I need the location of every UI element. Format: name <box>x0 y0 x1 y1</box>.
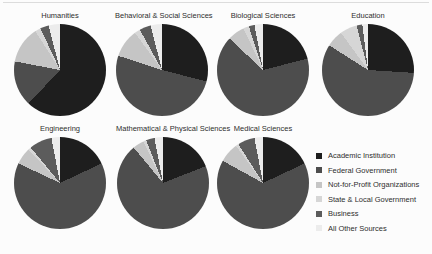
legend-color-swatch <box>316 182 322 188</box>
pie-title: Medical Sciences <box>216 124 310 134</box>
pie-biological-sciences <box>217 24 309 116</box>
legend-label: All Other Sources <box>328 224 387 233</box>
legend-color-swatch <box>316 196 322 202</box>
pie-engineering <box>14 137 106 229</box>
legend-color-swatch <box>316 225 322 231</box>
legend-label: Business <box>328 209 358 218</box>
legend-item-not-for-profit-organizations: Not-for-Profit Organizations <box>316 180 419 189</box>
legend-item-federal-government: Federal Government <box>316 166 419 175</box>
pie-chart-panel: Humanities Behavioral & Social Sciences … <box>0 0 432 254</box>
pie-humanities <box>14 24 106 116</box>
legend-label: Not-for-Profit Organizations <box>328 180 419 189</box>
pie-title: Education <box>321 11 415 21</box>
pie-title: Humanities <box>13 11 107 21</box>
legend-color-swatch <box>316 211 322 217</box>
pie-figure-humanities: Humanities <box>13 11 107 116</box>
legend-label: State & Local Government <box>328 195 416 204</box>
pie-title: Biological Sciences <box>216 11 310 21</box>
pie-mathematical-physical-sciences <box>117 137 209 229</box>
legend-color-swatch <box>316 167 322 173</box>
legend-label: Academic Institution <box>328 151 395 160</box>
pie-title: Behavioral & Social Sciences <box>115 11 209 21</box>
pie-figure-medical-sciences: Medical Sciences <box>216 124 310 229</box>
pie-behavioral-social-sciences <box>116 24 208 116</box>
pie-figure-engineering: Engineering <box>13 124 107 229</box>
pie-title: Mathematical & Physical Sciences <box>116 124 210 134</box>
pie-medical-sciences <box>217 137 309 229</box>
pie-figure-biological-sciences: Biological Sciences <box>216 11 310 116</box>
pie-education <box>322 24 414 116</box>
pie-title: Engineering <box>13 124 107 134</box>
legend-color-swatch <box>316 153 322 159</box>
legend-item-all-other-sources: All Other Sources <box>316 224 419 233</box>
pie-figure-mathematical-physical-sciences: Mathematical & Physical Sciences <box>116 124 210 229</box>
pie-figure-education: Education <box>321 11 415 116</box>
legend-label: Federal Government <box>328 166 397 175</box>
page-top-rule <box>3 2 429 3</box>
legend-item-business: Business <box>316 209 419 218</box>
legend: Academic Institution Federal Government … <box>316 151 419 233</box>
pie-figure-behavioral-social-sciences: Behavioral & Social Sciences <box>115 11 209 116</box>
legend-item-academic-institution: Academic Institution <box>316 151 419 160</box>
legend-item-state-local-government: State & Local Government <box>316 195 419 204</box>
